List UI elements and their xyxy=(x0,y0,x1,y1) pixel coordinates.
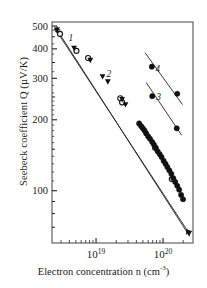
data-point-2 xyxy=(100,74,106,79)
data-point-1 xyxy=(58,31,63,36)
data-point-main-dense xyxy=(180,197,185,202)
data-point-3 xyxy=(174,126,179,131)
curve-label-2: 2 xyxy=(106,69,111,79)
x-axis-tick-label: 1020 xyxy=(154,247,173,261)
data-point-2 xyxy=(105,79,111,84)
y-axis-tick-label: 200 xyxy=(32,114,48,125)
data-point-4 xyxy=(175,91,180,96)
figure-container: 100200300400500101910201234 Seebeck coef… xyxy=(0,0,207,288)
curve-label-1: 1 xyxy=(68,33,73,43)
curve-label-3: 3 xyxy=(155,92,161,102)
y-axis-tick-label: 500 xyxy=(32,21,48,32)
x-axis-tick-label: 1019 xyxy=(87,247,106,261)
y-axis-tick-label: 400 xyxy=(32,43,48,54)
data-point-main-dense xyxy=(177,187,182,192)
y-axis-tick-label: 300 xyxy=(32,73,48,84)
y-axis-tick-label: 100 xyxy=(32,185,48,196)
data-point-4 xyxy=(149,64,154,69)
x-axis-label: Electron concentration n (cm-3) xyxy=(0,264,207,277)
fit-line-2 xyxy=(57,30,190,237)
chart-canvas: 100200300400500101910201234 xyxy=(0,0,207,288)
y-axis-label: Seebeck coefficient Q (µV/K) xyxy=(18,37,29,207)
curve-label-4: 4 xyxy=(155,64,160,74)
data-point-3 xyxy=(150,94,155,99)
